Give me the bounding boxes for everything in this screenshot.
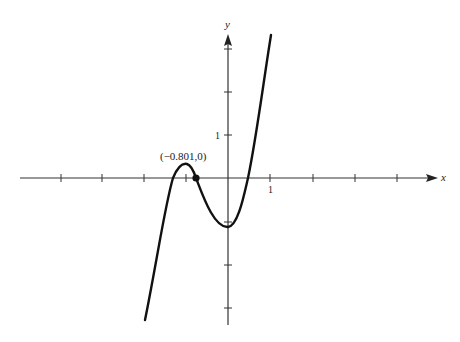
x-tick-label-1: 1 <box>268 184 273 195</box>
y-axis-label: y <box>224 18 230 30</box>
point-label: (−0.801,0) <box>160 150 207 163</box>
cubic-graph: (−0.801,0) 1 1 x y <box>0 0 460 342</box>
x-axis-label: x <box>440 171 446 183</box>
root-point-marker <box>192 174 199 181</box>
y-tick-label-1: 1 <box>215 130 220 141</box>
